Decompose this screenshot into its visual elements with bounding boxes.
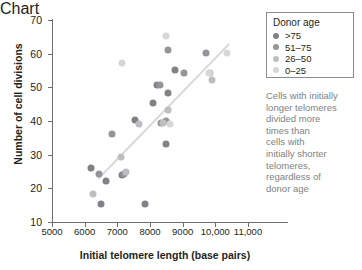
data-point: [223, 49, 230, 56]
data-point: [135, 121, 142, 128]
legend-swatch-icon: [273, 33, 279, 39]
legend-item[interactable]: 26–50: [273, 53, 353, 65]
legend-swatch-icon: [273, 56, 279, 62]
data-point: [163, 140, 170, 147]
data-point: [163, 33, 170, 40]
annotation-line: longer telomeres: [266, 102, 358, 114]
legend-item-label: >75: [285, 30, 301, 41]
data-point: [96, 170, 103, 177]
data-point: [117, 154, 124, 161]
data-point: [164, 46, 171, 53]
annotation-line: cells with: [266, 136, 358, 148]
data-point: [150, 100, 157, 107]
x-tick-label: 11,000: [228, 226, 268, 237]
data-point: [209, 76, 216, 83]
scatter-chart-figure: 10203040506070 5000600070008000900010,00…: [0, 0, 362, 270]
x-axis-title: Initial telomere length (base pairs): [34, 249, 296, 261]
legend-title: Donor age: [273, 17, 353, 28]
legend-item-label: 0–25: [285, 65, 306, 76]
data-point: [89, 190, 96, 197]
data-point: [142, 201, 149, 208]
data-point: [202, 49, 209, 56]
data-point: [181, 69, 188, 76]
data-point: [205, 69, 212, 76]
x-axis-line: [52, 222, 288, 223]
legend-box: Donor age >7551–7526–500–25: [266, 12, 354, 78]
annotation-line: initially shorter: [266, 148, 358, 160]
data-point: [102, 177, 109, 184]
data-point: [98, 201, 105, 208]
annotation-line: divided more: [266, 113, 358, 125]
legend-item-label: 26–50: [285, 53, 311, 64]
data-point: [88, 164, 95, 171]
legend-item[interactable]: >75: [273, 30, 353, 42]
data-point: [156, 81, 163, 88]
y-tick-label: 20: [16, 183, 42, 193]
legend-item[interactable]: 51–75: [273, 42, 353, 54]
legend-item[interactable]: 0–25: [273, 65, 353, 77]
annotation-line: donor age: [266, 183, 358, 195]
annotation-text: Cells with initiallylonger telomeresdivi…: [266, 90, 358, 194]
y-axis-title: Number of cell divisions: [12, 24, 24, 184]
legend-item-label: 51–75: [285, 42, 311, 53]
data-point: [164, 106, 171, 113]
data-point: [109, 130, 116, 137]
data-point: [122, 168, 129, 175]
data-point: [171, 66, 178, 73]
data-point: [119, 60, 126, 67]
annotation-line: Cells with initially: [266, 90, 358, 102]
legend-swatch-icon: [273, 44, 279, 50]
annotation-line: times than: [266, 125, 358, 137]
annotation-line: telomeres,: [266, 160, 358, 172]
legend-swatch-icon: [273, 67, 279, 73]
data-point: [164, 90, 171, 97]
annotation-line: regardless of: [266, 171, 358, 183]
data-point: [166, 120, 173, 127]
legend-items: >7551–7526–500–25: [273, 30, 353, 76]
plot-area: [52, 20, 248, 222]
